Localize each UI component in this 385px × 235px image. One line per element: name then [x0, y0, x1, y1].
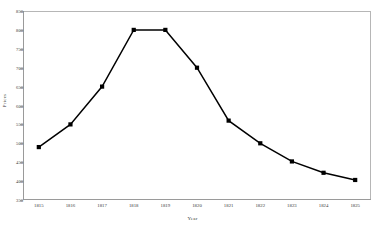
y-axis-title: Prices: [2, 84, 7, 118]
x-tick-label: 1825: [335, 203, 375, 209]
x-axis-ticks: 1815181618171818181918201821182218231824…: [0, 0, 385, 235]
x-axis-title: Year: [0, 216, 385, 221]
chart-container: 350400450500550600650700750800850 181518…: [0, 0, 385, 235]
